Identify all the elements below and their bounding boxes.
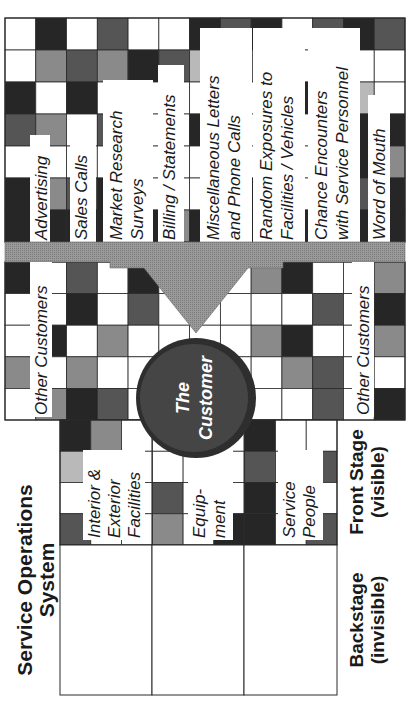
front-stage-label: ment: [210, 499, 229, 538]
touchpoint-label: Facilities / Vehicles: [278, 96, 297, 240]
grid-cell: [97, 388, 128, 420]
backstage-label: Backstage (invisible): [346, 572, 388, 667]
grid-cell: [152, 451, 183, 482]
touchpoint-label: Advertising: [32, 155, 51, 241]
grid-cell: [313, 262, 344, 294]
touchpoint-label: Random Exposures to: [257, 72, 276, 240]
grid-cell: [128, 325, 159, 357]
grid-cell: [36, 18, 67, 50]
grid-cell: [128, 18, 159, 50]
grid-cell: [152, 483, 183, 514]
grid-cell: [251, 325, 282, 357]
grid-cell: [282, 325, 313, 357]
grid-cell: [313, 388, 344, 420]
touchpoint-label: Word of Mouth: [370, 129, 389, 241]
grid-cell: [97, 357, 128, 389]
grid-cell: [282, 388, 313, 420]
grid-cell: [91, 420, 122, 451]
touchpoint-label: Surveys: [128, 178, 147, 240]
front-stage-label: Equip-: [190, 489, 209, 538]
svg-text:(invisible): (invisible): [367, 576, 388, 665]
grid-cell: [374, 50, 405, 82]
grid-cell: [67, 50, 98, 82]
touchpoint-label: with Service Personnel: [333, 66, 352, 240]
grid-cell: [313, 294, 344, 326]
front-stage-label: People: [300, 485, 319, 538]
grid-cell: [306, 420, 337, 451]
grid-cell: [282, 357, 313, 389]
front-stage-label: Service: [280, 481, 299, 538]
backstage-area: [60, 545, 337, 695]
grid-cell: [97, 325, 128, 357]
grid-cell: [374, 18, 405, 50]
grid-cell: [374, 325, 405, 357]
touchpoint-label: Sales Calls: [72, 154, 91, 240]
touchpoint-label: Chance Encounters: [312, 90, 331, 240]
svg-text:System: System: [35, 543, 58, 618]
svg-text:Front Stage: Front Stage: [346, 429, 367, 535]
diagram-title: Service Operations System: [13, 484, 58, 675]
grid-cell: [128, 50, 159, 82]
touchpoint-label: Miscellaneous Letters: [204, 75, 223, 240]
grid-cell: [128, 294, 159, 326]
front-stage-label: Facilities: [125, 471, 144, 538]
grid-cell: [251, 357, 282, 389]
grid-cell: [152, 514, 183, 545]
grid-cell: [60, 420, 91, 451]
grid-cell: [313, 325, 344, 357]
customer-label-2: Customer: [196, 355, 216, 440]
customer-circle: The Customer: [136, 338, 256, 458]
grid-cell: [67, 294, 98, 326]
grid-cell: [36, 82, 67, 114]
grid-cell: [282, 294, 313, 326]
grid-cell: [5, 50, 36, 82]
grid-cell: [97, 18, 128, 50]
grid-cell: [67, 357, 98, 389]
other-customers-right-label: Other Customers: [352, 262, 374, 417]
grid-cell: [97, 294, 128, 326]
grid-cell: [67, 18, 98, 50]
front-stage-label: Exterior: [105, 478, 124, 538]
grid-cell: [282, 262, 313, 294]
touchpoint-label: Market Research: [107, 111, 126, 240]
grid-cell: [5, 18, 36, 50]
svg-text:Other Customers: Other Customers: [32, 285, 51, 415]
grid-cell: [245, 483, 276, 514]
svg-text:Backstage: Backstage: [346, 572, 367, 667]
grid-cell: [313, 357, 344, 389]
svg-text:Service Operations: Service Operations: [13, 484, 36, 675]
svg-text:(visible): (visible): [367, 446, 388, 518]
grid-cell: [67, 325, 98, 357]
grid-cell: [251, 294, 282, 326]
grid-cell: [374, 357, 405, 389]
touchpoint-label: Billing / Statements: [160, 94, 179, 240]
front-stage-label: Interior &: [85, 469, 104, 538]
grid-cell: [245, 451, 276, 482]
grid-cell: [374, 388, 405, 420]
grid-cell: [374, 262, 405, 294]
svg-text:Other Customers: Other Customers: [354, 285, 373, 415]
customer-label-1: The: [173, 382, 193, 414]
touchpoint-label: and Phone Calls: [225, 115, 244, 240]
grid-cell: [67, 388, 98, 420]
grid-cell: [275, 420, 306, 451]
grid-cell: [97, 50, 128, 82]
grid-cell: [374, 294, 405, 326]
servuction-diagram: AdvertisingSales CallsMarket ResearchSur…: [0, 0, 419, 707]
grid-cell: [67, 262, 98, 294]
grid-cell: [67, 82, 98, 114]
grid-cell: [36, 50, 67, 82]
grid-cell: [159, 18, 190, 50]
grid-cell: [5, 82, 36, 114]
front-stage-label: Front Stage (visible): [346, 429, 388, 535]
other-customers-left-label: Other Customers: [30, 262, 52, 417]
grid-cell: [245, 514, 276, 545]
grid-cell: [220, 294, 251, 326]
